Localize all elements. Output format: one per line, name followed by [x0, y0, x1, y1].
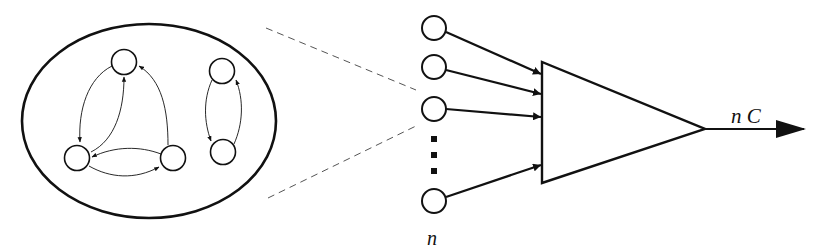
input-neuron-1 — [422, 16, 446, 40]
arrow-input-2 — [446, 70, 541, 94]
edge-pair-top-to-bottom — [206, 80, 213, 141]
input-neuron-3 — [422, 97, 446, 121]
arrow-input-3 — [446, 109, 541, 117]
input-connections — [446, 32, 541, 197]
dashed-line-upper — [266, 28, 416, 90]
graph-node-top — [112, 50, 137, 75]
edge-top-to-bottom-left — [80, 66, 112, 142]
output: n C — [705, 104, 806, 138]
graph-node-pair-bottom — [211, 140, 236, 165]
summation-triangle — [542, 62, 705, 183]
edge-bottom-right-to-top — [139, 66, 168, 145]
output-label: n C — [731, 104, 762, 128]
input-count-label: n — [427, 227, 437, 249]
graph-node-bottom-left — [65, 146, 90, 171]
input-neurons: n — [422, 16, 446, 249]
arrow-input-1 — [446, 32, 541, 74]
edge-bottom-right-to-bottom-left — [92, 148, 161, 157]
input-neuron-n — [422, 189, 446, 213]
input-neuron-2 — [422, 55, 446, 79]
network-to-neuron-diagram: n n C — [0, 0, 816, 251]
network-boundary-ellipse — [22, 24, 276, 218]
zoom-projection-lines — [266, 28, 416, 198]
edge-pair-bottom-to-top — [234, 80, 241, 144]
output-arrowhead-icon — [776, 120, 806, 138]
arrow-input-n — [446, 165, 541, 197]
graph-node-pair-top — [210, 59, 235, 84]
dashed-line-lower — [268, 126, 416, 198]
network-cluster — [22, 24, 276, 218]
edge-bottom-left-to-top — [91, 77, 124, 152]
ellipsis-dots — [431, 136, 437, 174]
edge-bottom-left-to-bottom-right — [89, 166, 159, 176]
graph-node-bottom-right — [161, 146, 186, 171]
